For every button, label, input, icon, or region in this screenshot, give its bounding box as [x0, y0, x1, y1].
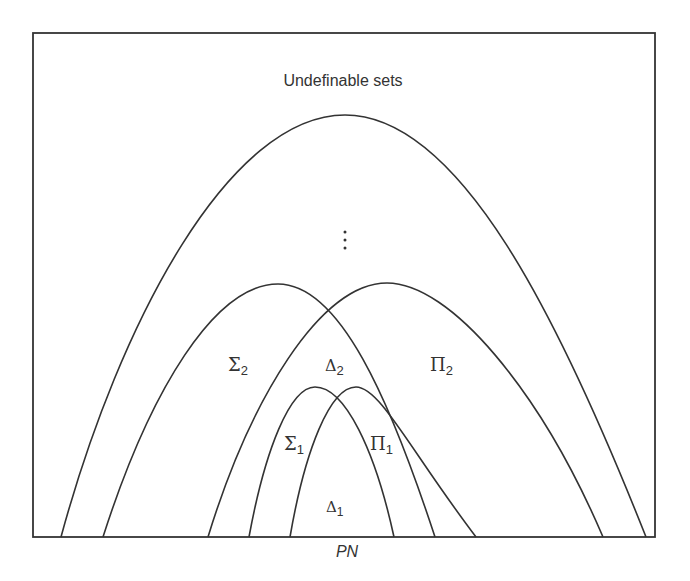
outer-arch [61, 115, 646, 537]
pi1-arch [290, 387, 476, 537]
pn-label: PN [336, 543, 359, 560]
sigma1-label: Σ1 [284, 433, 304, 457]
hierarchy-diagram: Undefinable sets Σ2 Δ2 Π2 Σ1 Π1 Δ1 PN [0, 0, 690, 581]
pi1-label: Π1 [370, 433, 393, 457]
pi2-arch [208, 283, 603, 537]
ellipsis-dot [344, 231, 347, 234]
ellipsis-dot [344, 247, 347, 250]
sigma2-label: Σ2 [228, 354, 248, 378]
undefinable-sets-label: Undefinable sets [283, 72, 402, 89]
diagram-frame [33, 33, 655, 537]
ellipsis-dot [344, 239, 347, 242]
delta2-label: Δ2 [325, 356, 344, 378]
pi2-label: Π2 [430, 354, 453, 378]
sigma1-arch [249, 387, 394, 537]
delta1-label: Δ1 [326, 498, 344, 519]
